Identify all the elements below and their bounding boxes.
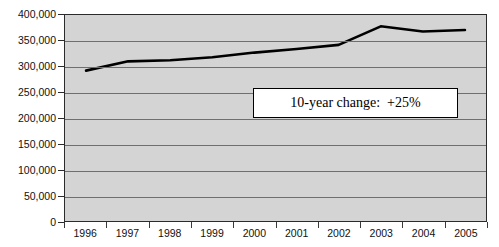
x-tick-mark (233, 222, 234, 228)
x-tick-mark (487, 222, 488, 228)
y-tick-label: 300,000 (18, 61, 56, 72)
x-tick-label: 1999 (200, 228, 223, 239)
gridline (65, 197, 486, 198)
y-tick-mark (58, 196, 64, 197)
gridline (65, 119, 486, 120)
x-tick-label: 1998 (158, 228, 181, 239)
y-tick-label: 100,000 (18, 165, 56, 176)
x-tick-mark (64, 222, 65, 228)
line-chart: 050,000100,000150,000200,000250,000300,0… (0, 0, 499, 247)
y-tick-mark (58, 118, 64, 119)
gridline (65, 145, 486, 146)
x-tick-mark (318, 222, 319, 228)
y-axis: 050,000100,000150,000200,000250,000300,0… (0, 0, 56, 247)
annotation-callout: 10-year change: +25% (253, 88, 458, 118)
x-tick-mark (276, 222, 277, 228)
x-tick-mark (402, 222, 403, 228)
gridline (65, 171, 486, 172)
x-tick-mark (191, 222, 192, 228)
annotation-label: 10-year change: +25% (290, 95, 420, 111)
y-tick-mark (58, 14, 64, 15)
y-tick-label: 250,000 (18, 87, 56, 98)
x-tick-label: 2003 (370, 228, 393, 239)
y-tick-label: 150,000 (18, 139, 56, 150)
y-tick-label: 200,000 (18, 113, 56, 124)
y-tick-mark (58, 66, 64, 67)
y-tick-mark (58, 92, 64, 93)
x-tick-label: 2004 (412, 228, 435, 239)
y-tick-mark (58, 40, 64, 41)
y-tick-mark (58, 170, 64, 171)
y-tick-label: 350,000 (18, 35, 56, 46)
y-tick-label: 50,000 (24, 191, 56, 202)
gridline (65, 41, 486, 42)
x-tick-label: 2005 (454, 228, 477, 239)
y-tick-mark (58, 144, 64, 145)
gridline (65, 67, 486, 68)
y-tick-label: 0 (50, 217, 56, 228)
plot-area (64, 14, 487, 222)
x-tick-label: 2002 (327, 228, 350, 239)
x-tick-mark (445, 222, 446, 228)
y-tick-label: 400,000 (18, 9, 56, 20)
data-series-line (86, 26, 465, 70)
x-tick-label: 2001 (285, 228, 308, 239)
x-tick-mark (149, 222, 150, 228)
x-tick-mark (360, 222, 361, 228)
x-tick-label: 1997 (116, 228, 139, 239)
x-tick-label: 2000 (243, 228, 266, 239)
x-tick-label: 1996 (73, 228, 96, 239)
y-tick-mark (58, 222, 64, 223)
x-tick-mark (106, 222, 107, 228)
